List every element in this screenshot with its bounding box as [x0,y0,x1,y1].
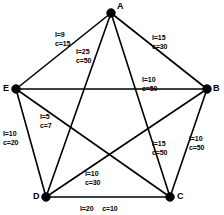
edge-cost-ad: c=50 [76,57,91,66]
node-dot-e [12,85,20,93]
node-label-a: A [117,2,124,11]
node-dot-a [107,9,115,17]
node-label-d: D [33,192,40,201]
edge-cost-db: c=30 [85,179,100,188]
edge-cost-ae: c=15 [55,40,70,49]
edge-label-ac: l=15 c=50 [152,140,167,158]
edge-length-ad: l=25 [76,48,91,57]
edge-length-ab: l=15 [152,34,167,43]
edge-length-ac: l=15 [152,140,167,149]
edge-cost-ac: c=50 [152,149,167,158]
edge-label-ed: l=10 c=20 [3,130,18,148]
edge-label-ec: l=5 c=7 [40,113,52,131]
edge-cost-ed: c=20 [3,139,18,148]
edge-length-bc: l=10 [189,135,204,144]
edge-line-ed [16,89,46,197]
node-dot-d [42,193,50,201]
node-dot-c [166,193,174,201]
edge-label-ab: l=15 c=30 [152,34,167,52]
edge-length-ae: l=9 [55,31,70,40]
node-label-b: B [213,84,220,93]
edge-length-ec: l=5 [40,113,52,122]
edge-cost-ec: c=7 [40,122,52,131]
network-graph-figure: A B C D E l=9 c=15 l=15 c=30 l=25 c=50 l… [0,0,224,215]
edge-label-dc: l=20 c=10 [80,205,118,214]
node-label-c: C [177,192,184,201]
edge-label-ae: l=9 c=15 [55,31,70,49]
edge-cost-bc: c=50 [189,144,204,153]
edge-cost-eb: c=50 [142,85,157,94]
edge-length-eb: l=10 [142,76,157,85]
edge-cost-dc: c=10 [102,205,117,212]
edge-label-db: l=10 c=30 [85,170,100,188]
edge-cost-ab: c=30 [152,43,167,52]
edge-length-ed: l=10 [3,130,18,139]
edge-line-db [46,89,207,197]
edge-length-db: l=10 [85,170,100,179]
edge-label-eb: l=10 c=50 [142,76,157,94]
edge-label-bc: l=10 c=50 [189,135,204,153]
edge-label-ad: l=25 c=50 [76,48,91,66]
node-dot-b [203,85,211,93]
graph-canvas [0,0,224,215]
edge-group [16,13,207,197]
node-group [12,9,211,201]
node-label-e: E [3,84,9,93]
edge-length-dc: l=20 [80,205,93,212]
